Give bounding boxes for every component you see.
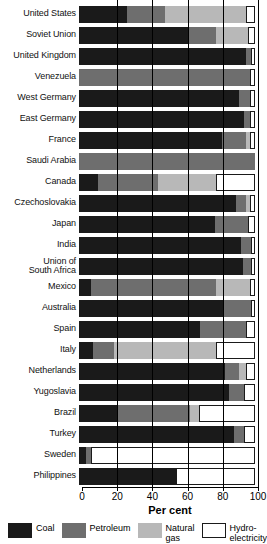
coal-segment bbox=[79, 237, 241, 254]
coal-segment bbox=[79, 48, 246, 65]
chart-row: East Germany bbox=[0, 109, 267, 129]
petroleum-segment bbox=[93, 342, 114, 359]
coal-segment bbox=[79, 279, 91, 296]
row-label: Philippines bbox=[0, 471, 79, 481]
chart-legend: CoalPetroleumNatural gasHydro- electrici… bbox=[8, 523, 263, 544]
row-bar bbox=[79, 405, 255, 422]
petroleum-swatch bbox=[62, 523, 86, 538]
row-bar bbox=[79, 237, 255, 254]
x-tick-label: 80 bbox=[217, 491, 228, 502]
coal-segment bbox=[79, 111, 244, 128]
coal-segment bbox=[79, 321, 200, 338]
petroleum-segment bbox=[229, 384, 245, 401]
x-axis-label: Per cent bbox=[82, 504, 258, 516]
natural-gas-segment bbox=[239, 363, 246, 380]
coal-segment bbox=[79, 384, 229, 401]
coal-segment bbox=[79, 300, 223, 317]
row-bar bbox=[79, 6, 255, 23]
petroleum-segment bbox=[243, 258, 252, 275]
hydro-electricity-segment bbox=[91, 447, 255, 464]
row-bar bbox=[79, 258, 255, 275]
row-label: Brazil bbox=[0, 408, 79, 418]
chart-row: Philippines bbox=[0, 466, 267, 486]
coal-segment bbox=[79, 363, 225, 380]
petroleum-segment bbox=[200, 321, 246, 338]
petroleum-segment bbox=[241, 237, 252, 254]
chart-row: United States bbox=[0, 4, 267, 24]
coal-segment bbox=[79, 132, 222, 149]
legend-label: Hydro- electricity bbox=[230, 523, 267, 543]
x-tick-label: 60 bbox=[182, 491, 193, 502]
petroleum-segment bbox=[222, 132, 247, 149]
row-label: West Germany bbox=[0, 93, 79, 103]
legend-item: Coal bbox=[8, 523, 55, 538]
x-tick-label: 100 bbox=[250, 491, 267, 502]
row-bar bbox=[79, 363, 255, 380]
row-label: Union of South Africa bbox=[0, 257, 79, 276]
row-bar bbox=[79, 447, 255, 464]
stacked-bar-chart: United StatesSoviet UnionUnited KingdomV… bbox=[0, 0, 267, 544]
petroleum-segment bbox=[79, 69, 250, 86]
row-label: Mexico bbox=[0, 282, 79, 292]
chart-row: Netherlands bbox=[0, 361, 267, 381]
row-label: Turkey bbox=[0, 429, 79, 439]
row-label: Canada bbox=[0, 177, 79, 187]
chart-row: Japan bbox=[0, 214, 267, 234]
coal-swatch bbox=[8, 523, 32, 538]
row-label: Czechoslovakia bbox=[0, 198, 79, 208]
row-bar bbox=[79, 300, 255, 317]
chart-row: United Kingdom bbox=[0, 46, 267, 66]
coal-segment bbox=[79, 468, 176, 485]
coal-segment bbox=[79, 27, 188, 44]
hydro-electricity-segment bbox=[250, 195, 255, 212]
hydro-electricity-segment bbox=[250, 132, 255, 149]
legend-label: Coal bbox=[36, 523, 55, 534]
hydro-electricity-segment bbox=[244, 426, 255, 443]
legend-item: Hydro- electricity bbox=[202, 523, 267, 543]
coal-segment bbox=[79, 216, 215, 233]
hydro-electricity-segment bbox=[244, 384, 255, 401]
chart-row: Italy bbox=[0, 340, 267, 360]
hydro-electricity-segment bbox=[176, 468, 255, 485]
chart-row: Union of South Africa bbox=[0, 256, 267, 276]
row-label: France bbox=[0, 135, 79, 145]
chart-row: France bbox=[0, 130, 267, 150]
legend-item: Natural gas bbox=[138, 523, 195, 543]
hydro-electricity-segment bbox=[250, 111, 255, 128]
legend-label: Petroleum bbox=[90, 523, 131, 534]
hydro-electricity-segment bbox=[248, 216, 255, 233]
natural-gas-segment bbox=[158, 174, 216, 191]
chart-row: India bbox=[0, 235, 267, 255]
hydro-electricity-segment bbox=[251, 48, 255, 65]
hydro-electricity-segment bbox=[216, 174, 255, 191]
row-bar bbox=[79, 174, 255, 191]
row-label: Sweden bbox=[0, 450, 79, 460]
row-label: Netherlands bbox=[0, 366, 79, 376]
row-bar bbox=[79, 90, 255, 107]
row-label: Japan bbox=[0, 219, 79, 229]
petroleum-segment bbox=[239, 90, 250, 107]
x-tick-label: 0 bbox=[79, 491, 85, 502]
chart-row: Turkey bbox=[0, 424, 267, 444]
row-label: Venezuela bbox=[0, 72, 79, 82]
row-label: Saudi Arabia bbox=[0, 156, 79, 166]
chart-row: Sweden bbox=[0, 445, 267, 465]
hydro-electricity-segment bbox=[251, 237, 255, 254]
chart-row: Brazil bbox=[0, 403, 267, 423]
chart-row: Czechoslovakia bbox=[0, 193, 267, 213]
x-tick-label: 20 bbox=[112, 491, 123, 502]
row-label: Australia bbox=[0, 303, 79, 313]
hydro-electricity-segment bbox=[246, 363, 255, 380]
row-bar bbox=[79, 468, 255, 485]
row-bar bbox=[79, 279, 255, 296]
row-bar bbox=[79, 153, 255, 170]
hydro-electricity-segment bbox=[250, 90, 255, 107]
chart-row: Australia bbox=[0, 298, 267, 318]
natural-gas-segment bbox=[114, 342, 216, 359]
chart-row: Venezuela bbox=[0, 67, 267, 87]
coal-segment bbox=[79, 195, 236, 212]
hydro-electricity-segment bbox=[250, 279, 255, 296]
chart-row: Canada bbox=[0, 172, 267, 192]
row-label: East Germany bbox=[0, 114, 79, 124]
petroleum-segment bbox=[98, 174, 158, 191]
